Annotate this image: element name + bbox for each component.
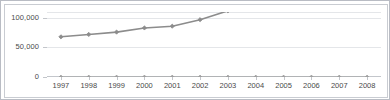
data-series xyxy=(59,12,230,39)
x-axis-tick-label: 2005 xyxy=(275,81,292,91)
x-axis-tick-mark xyxy=(367,77,368,80)
y-axis-tick-label: 50,000 xyxy=(4,43,43,51)
data-point-marker xyxy=(170,24,174,28)
x-axis-tick-mark xyxy=(144,77,145,80)
data-point-marker xyxy=(142,26,146,30)
data-point-marker xyxy=(226,12,230,13)
x-axis-tick-label: 1998 xyxy=(80,81,97,91)
data-point-marker xyxy=(114,30,118,34)
x-axis-tick-label: 2000 xyxy=(136,81,153,91)
y-axis-labels: 050,000100,000 xyxy=(5,12,43,77)
data-series xyxy=(59,75,369,77)
x-axis-tick-label: 2001 xyxy=(164,81,181,91)
x-axis-tick-mark xyxy=(61,77,62,80)
y-axis-tick-mark xyxy=(43,77,47,78)
x-axis-tick-label: 2006 xyxy=(303,81,320,91)
x-axis-tick-label: 2007 xyxy=(331,81,348,91)
data-point-marker xyxy=(87,32,91,36)
x-axis-tick-label: 2008 xyxy=(359,81,376,91)
x-axis-tick-mark xyxy=(172,77,173,80)
x-axis-tick-label: 1997 xyxy=(53,81,70,91)
series-layer xyxy=(47,12,381,77)
x-axis-tick-mark xyxy=(228,77,229,80)
x-axis-tick-mark xyxy=(200,77,201,80)
data-point-marker xyxy=(59,35,63,39)
x-axis-tick-mark xyxy=(256,77,257,80)
x-axis-tick-mark xyxy=(284,77,285,80)
y-axis-tick-label: 0 xyxy=(4,73,43,81)
data-point-marker xyxy=(198,18,202,22)
x-axis-tick-label: 2003 xyxy=(220,81,237,91)
x-axis-tick-mark xyxy=(117,77,118,80)
x-axis-tick-label: 2002 xyxy=(192,81,209,91)
x-axis-tick-mark xyxy=(311,77,312,80)
plot-area xyxy=(47,12,381,77)
x-axis-tick-label: 2004 xyxy=(247,81,264,91)
y-axis-tick-label: 100,000 xyxy=(4,14,43,22)
chart-frame: 050,000100,000 1997199819992000200120022… xyxy=(0,0,390,100)
x-axis-labels: 1997199819992000200120022003200420052006… xyxy=(47,81,381,93)
chart-container: 050,000100,000 1997199819992000200120022… xyxy=(4,4,388,98)
series-line xyxy=(61,12,228,37)
x-axis-tick-mark xyxy=(89,77,90,80)
x-axis-tick-mark xyxy=(339,77,340,80)
x-axis-tick-label: 1999 xyxy=(108,81,125,91)
